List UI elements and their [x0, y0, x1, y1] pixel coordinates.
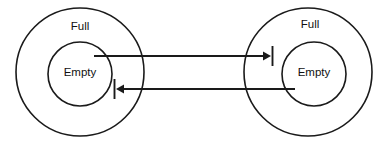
- diagram-canvas: Full Empty Full Empty: [0, 0, 392, 151]
- left-outer-label: Full: [71, 20, 90, 32]
- top-connector-arrowhead: [263, 52, 271, 61]
- right-inner-label: Empty: [298, 66, 331, 78]
- left-group: Full Empty: [16, 8, 144, 136]
- right-outer-label: Full: [301, 18, 320, 30]
- bottom-connector: [115, 79, 296, 99]
- top-connector: [94, 46, 273, 66]
- bottom-connector-arrowhead: [116, 85, 124, 94]
- right-group: Full Empty: [244, 8, 372, 136]
- left-inner-label: Empty: [64, 66, 97, 78]
- diagram-svg: Full Empty Full Empty: [0, 0, 392, 151]
